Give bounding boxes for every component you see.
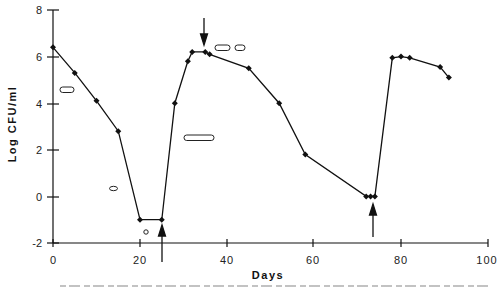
data-point-marker	[389, 55, 395, 61]
long-rod-icon	[184, 135, 214, 141]
y-tick-label: 8	[36, 4, 42, 16]
figure-caption-clipped	[60, 283, 490, 288]
data-point-marker	[372, 193, 378, 199]
y-axis-title: Log CFU/ml	[6, 86, 18, 163]
data-point-marker	[185, 58, 191, 64]
x-tick-label: 40	[220, 254, 234, 266]
y-tick-label: -2	[32, 237, 42, 249]
arrow-up-icon	[370, 204, 377, 237]
chart: 8 6 4 2 0 -2 0 20 40 60 80 100 Days Log …	[0, 0, 503, 288]
y-tick-labels: 8 6 4 2 0 -2	[32, 4, 42, 249]
short-rod-icon	[60, 87, 74, 93]
data-point-marker	[407, 55, 413, 61]
short-rod-icon	[215, 45, 230, 51]
x-axis-title: Days	[252, 269, 284, 281]
data-point-marker	[398, 54, 404, 60]
coccus-icon	[144, 230, 148, 234]
x-tick-label: 20	[133, 254, 147, 266]
short-rod-icon	[235, 45, 245, 51]
arrow-down-icon	[201, 18, 208, 45]
x-tick-label: 100	[476, 254, 497, 266]
y-tick-label: 6	[36, 51, 42, 63]
y-tick-label: 2	[36, 144, 42, 156]
x-tick-label: 0	[50, 254, 56, 266]
x-tick-labels: 0 20 40 60 80 100	[50, 254, 498, 266]
data-point-marker	[189, 49, 195, 55]
y-tick-label: 4	[36, 98, 42, 110]
data-line	[53, 47, 449, 219]
x-tick-label: 60	[306, 254, 320, 266]
data-point-marker	[137, 217, 143, 223]
cell-shapes	[60, 45, 245, 234]
x-tick-label: 80	[394, 254, 408, 266]
data-point-marker	[159, 217, 165, 223]
x-axis	[53, 239, 488, 247]
oval-cell-icon	[110, 186, 118, 190]
data-point-marker	[172, 100, 178, 106]
y-tick-label: 0	[36, 191, 42, 203]
